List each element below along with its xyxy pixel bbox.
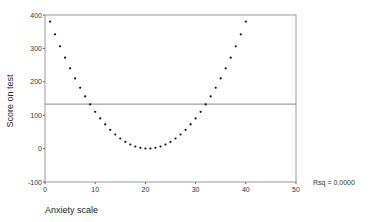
data-points bbox=[49, 20, 247, 149]
data-point bbox=[195, 117, 197, 119]
x-tick-label: 20 bbox=[142, 186, 150, 193]
data-point bbox=[69, 67, 71, 69]
y-axis-ticks: -1000100200300400 bbox=[28, 12, 45, 186]
plot-border bbox=[45, 15, 296, 182]
x-tick-label: 30 bbox=[192, 186, 200, 193]
data-point bbox=[159, 145, 161, 147]
x-tick-label: 10 bbox=[91, 186, 99, 193]
data-point bbox=[94, 111, 96, 113]
x-axis-ticks: 01020304050 bbox=[43, 182, 300, 193]
data-point bbox=[230, 57, 232, 59]
data-point bbox=[144, 147, 146, 149]
y-tick-label: 0 bbox=[38, 145, 42, 152]
y-axis-title: Score on test bbox=[5, 74, 15, 128]
data-point bbox=[169, 141, 171, 143]
data-point bbox=[154, 147, 156, 149]
y-tick-label: 400 bbox=[30, 12, 42, 19]
y-tick-label: 300 bbox=[30, 45, 42, 52]
data-point bbox=[210, 95, 212, 97]
data-point bbox=[54, 33, 56, 35]
data-point bbox=[79, 87, 81, 89]
data-point bbox=[104, 123, 106, 125]
x-tick-label: 40 bbox=[242, 186, 250, 193]
data-point bbox=[189, 123, 191, 125]
data-point bbox=[74, 77, 76, 79]
data-point bbox=[84, 95, 86, 97]
data-point bbox=[134, 145, 136, 147]
data-point bbox=[89, 103, 91, 105]
data-point bbox=[119, 137, 121, 139]
y-tick-label: 200 bbox=[30, 78, 42, 85]
data-point bbox=[174, 137, 176, 139]
data-point bbox=[179, 133, 181, 135]
data-point bbox=[49, 20, 51, 22]
data-point bbox=[240, 33, 242, 35]
data-point bbox=[139, 147, 141, 149]
x-tick-label: 0 bbox=[43, 186, 47, 193]
rsq-annotation: Rsq = 0.0000 bbox=[313, 179, 355, 187]
data-point bbox=[149, 147, 151, 149]
data-point bbox=[245, 20, 247, 22]
scatter-chart: -1000100200300400 01020304050 Score on t… bbox=[0, 0, 369, 222]
plot-frame bbox=[45, 15, 296, 182]
data-point bbox=[215, 87, 217, 89]
data-point bbox=[114, 133, 116, 135]
data-point bbox=[235, 45, 237, 47]
data-point bbox=[225, 67, 227, 69]
data-point bbox=[64, 57, 66, 59]
y-tick-label: -100 bbox=[28, 179, 42, 186]
data-point bbox=[99, 117, 101, 119]
y-tick-label: 100 bbox=[30, 112, 42, 119]
data-point bbox=[184, 129, 186, 131]
data-point bbox=[129, 143, 131, 145]
data-point bbox=[200, 111, 202, 113]
data-point bbox=[205, 103, 207, 105]
data-point bbox=[109, 129, 111, 131]
data-point bbox=[59, 45, 61, 47]
x-tick-label: 50 bbox=[292, 186, 300, 193]
data-point bbox=[124, 141, 126, 143]
data-point bbox=[164, 143, 166, 145]
x-axis-title: Anxiety scale bbox=[45, 205, 98, 215]
data-point bbox=[220, 77, 222, 79]
